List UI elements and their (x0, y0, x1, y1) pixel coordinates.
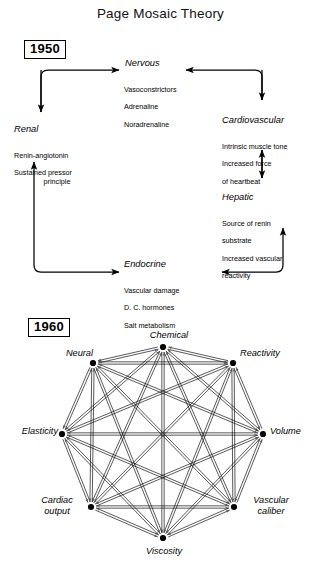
oct-node-elasticity (59, 431, 65, 437)
oct-node-neural (90, 360, 96, 366)
oct-label-elasticity: Elasticity (6, 426, 58, 437)
oct-node-viscosity (160, 535, 166, 541)
oct-edge (98, 349, 158, 363)
oct-edge (94, 368, 160, 533)
oct-edge (63, 439, 88, 502)
octagon-network (0, 0, 321, 569)
oct-edge (63, 367, 90, 428)
oct-edge (65, 439, 159, 536)
oct-label-cardiac-output: Cardiac output (28, 495, 86, 516)
oct-edge (237, 439, 262, 502)
oct-edge (167, 508, 228, 535)
oct-node-vascular-caliber (231, 504, 237, 510)
oct-label-volume: Volume (270, 426, 318, 437)
oct-edge (234, 368, 260, 429)
oct-label-reactivity: Reactivity (240, 348, 304, 359)
oct-edge (235, 438, 260, 501)
oct-edge (168, 510, 229, 537)
oct-edge (166, 368, 232, 533)
oct-edge (65, 368, 92, 429)
oct-node-volume (260, 431, 266, 437)
oct-node-chemical (160, 344, 166, 350)
oct-edge (98, 347, 158, 361)
oct-edge (168, 347, 228, 361)
figure-root: Page Mosaic Theory 1950 (0, 0, 321, 569)
oct-label-chemical: Chemical (134, 330, 204, 341)
oct-edge (166, 351, 258, 431)
oct-edge (95, 510, 157, 537)
oct-edge (236, 367, 262, 428)
oct-label-viscosity: Viscosity (128, 546, 200, 557)
oct-label-neural: Neural (47, 348, 93, 359)
oct-edge (166, 351, 233, 501)
oct-edge (96, 508, 158, 535)
oct-edge (167, 439, 260, 536)
oct-edge (66, 364, 227, 431)
oct-edge (67, 351, 160, 431)
oct-node-cardiac-output (88, 504, 94, 510)
oct-node-reactivity (230, 360, 236, 366)
oct-label-vascular-caliber: Vascular caliber (240, 495, 302, 516)
